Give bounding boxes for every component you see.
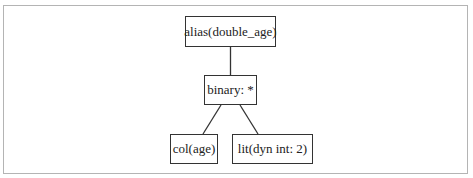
edge-binary-lit (240, 105, 258, 134)
node-alias-label: alias(double_age) (184, 24, 276, 40)
node-lit: lit(dyn int: 2) (232, 134, 313, 164)
node-alias: alias(double_age) (185, 16, 276, 47)
node-lit-label: lit(dyn int: 2) (238, 141, 307, 157)
node-col: col(age) (170, 134, 218, 164)
node-binary-label: binary: * (207, 82, 254, 98)
node-binary: binary: * (204, 75, 257, 105)
node-col-label: col(age) (173, 141, 216, 157)
edge-binary-col (203, 105, 221, 134)
